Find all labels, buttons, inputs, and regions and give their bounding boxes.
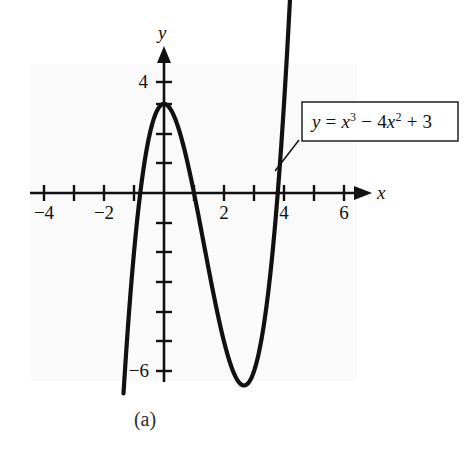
equation-term1-base: x: [341, 111, 350, 132]
equation-constant: 3: [423, 111, 433, 132]
equation-text: y = x3 − 4x2 + 3: [312, 110, 432, 133]
x-tick-label--2: −2: [90, 202, 118, 224]
figure-caption: (a): [0, 408, 290, 431]
y-axis-name: y: [158, 22, 166, 44]
equation-term2-coefficient: 4: [377, 111, 387, 132]
x-tick-label-6: 6: [332, 202, 356, 224]
y-tick-label--6: −6: [117, 360, 149, 382]
x-axis-name: x: [377, 182, 385, 204]
equation-equals: =: [321, 111, 342, 132]
y-tick-label-4: 4: [126, 71, 148, 93]
equation-minus: −: [356, 111, 377, 132]
x-axis: [30, 185, 372, 201]
x-tick-label--4: −4: [30, 202, 58, 224]
x-axis-arrowhead: [354, 186, 372, 200]
x-tick-label-2: 2: [212, 202, 236, 224]
y-axis: [156, 46, 172, 382]
x-tick-label-4: 4: [272, 202, 296, 224]
figure-graph-cubic: y = x3 − 4x2 + 3 x y −4 −2 2 4 6 4 −6 (a…: [0, 0, 476, 451]
equation-lhs: y: [312, 111, 321, 132]
curve-cubic: [124, 0, 295, 393]
y-axis-arrowhead: [157, 46, 171, 63]
equation-plus: +: [402, 111, 423, 132]
plot-svg: [0, 0, 476, 451]
